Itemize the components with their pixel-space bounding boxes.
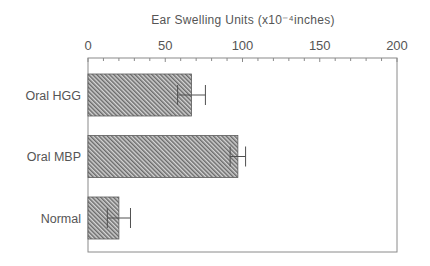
category-label: Normal <box>41 212 81 226</box>
chart-title: Ear Swelling Units (x10⁻⁴inches) <box>151 13 335 27</box>
chart: Ear Swelling Units (x10⁻⁴inches) 0501001… <box>0 0 430 266</box>
category-label: Oral MBP <box>27 150 81 164</box>
x-tick-label: 0 <box>84 38 91 53</box>
bar <box>88 74 192 116</box>
x-tick-label: 100 <box>232 38 254 53</box>
bar <box>88 136 238 178</box>
x-tick-label: 50 <box>158 38 172 53</box>
category-label: Oral HGG <box>25 89 81 103</box>
x-tick-label: 200 <box>386 38 408 53</box>
x-tick-label: 150 <box>309 38 331 53</box>
